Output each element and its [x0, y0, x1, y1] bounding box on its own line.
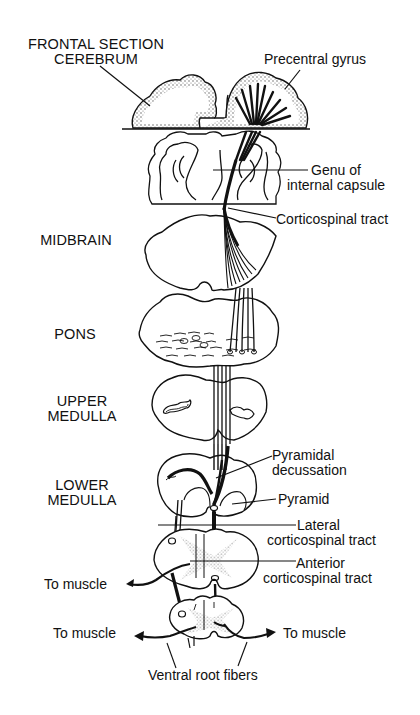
label-line: MEDULLA [42, 493, 122, 508]
corticospinal-pathway-drawing [0, 0, 420, 715]
label-midbrain: MIDBRAIN [36, 233, 116, 248]
label-pyramidal-decussation: Pyramidal decussation [272, 448, 347, 478]
label-upper-medulla: UPPER MEDULLA [42, 394, 122, 424]
label-line: To muscle [283, 625, 346, 641]
label-line: LOWER [42, 478, 122, 493]
label-lower-medulla: LOWER MEDULLA [42, 478, 122, 508]
label-line: Pyramid [278, 492, 329, 507]
label-precentral-gyrus: Precentral gyrus [264, 52, 366, 67]
label-line: Precentral gyrus [264, 52, 366, 67]
label-ventral-root-fibers: Ventral root fibers [148, 668, 258, 683]
label-line: PONS [50, 327, 100, 342]
pons-section [139, 288, 278, 367]
label-line: FRONTAL SECTION [18, 37, 174, 52]
label-line: Ventral root fibers [148, 667, 258, 683]
label-line: Lateral [267, 518, 376, 533]
cerebrum-section [100, 66, 310, 129]
label-anterior-corticospinal-tract: Anterior corticospinal tract [263, 556, 372, 586]
label-line: corticospinal tract [267, 533, 376, 548]
midbrain-section [145, 208, 276, 291]
label-line: decussation [272, 463, 347, 478]
label-to-muscle-upper-left: To muscle [44, 577, 107, 592]
label-frontal-section-cerebrum: FRONTAL SECTION CEREBRUM [18, 37, 174, 67]
label-corticospinal-tract: Corticospinal tract [276, 212, 388, 227]
label-line: UPPER [42, 394, 122, 409]
label-line: Genu of [287, 163, 385, 178]
label-to-muscle-lower-right: To muscle [283, 626, 346, 641]
label-to-muscle-lower-left: To muscle [53, 626, 116, 641]
label-line: To muscle [53, 625, 116, 641]
lumbar-cord-section [134, 596, 276, 668]
label-pyramid: Pyramid [278, 492, 329, 507]
label-line: internal capsule [287, 178, 385, 193]
label-genu-internal-capsule: Genu of internal capsule [287, 163, 385, 193]
label-line: MEDULLA [42, 409, 122, 424]
upper-medulla-section [152, 366, 267, 444]
internal-capsule-section [148, 131, 308, 210]
label-line: Anterior [263, 556, 372, 571]
label-line: To muscle [44, 576, 107, 592]
label-line: Corticospinal tract [276, 212, 388, 227]
label-line: MIDBRAIN [36, 233, 116, 248]
label-line: Pyramidal [272, 448, 347, 463]
label-line: corticospinal tract [263, 571, 372, 586]
label-lateral-corticospinal-tract: Lateral corticospinal tract [267, 518, 376, 548]
label-line: CEREBRUM [18, 52, 174, 67]
lower-medulla-section [158, 444, 276, 517]
label-pons: PONS [50, 327, 100, 342]
